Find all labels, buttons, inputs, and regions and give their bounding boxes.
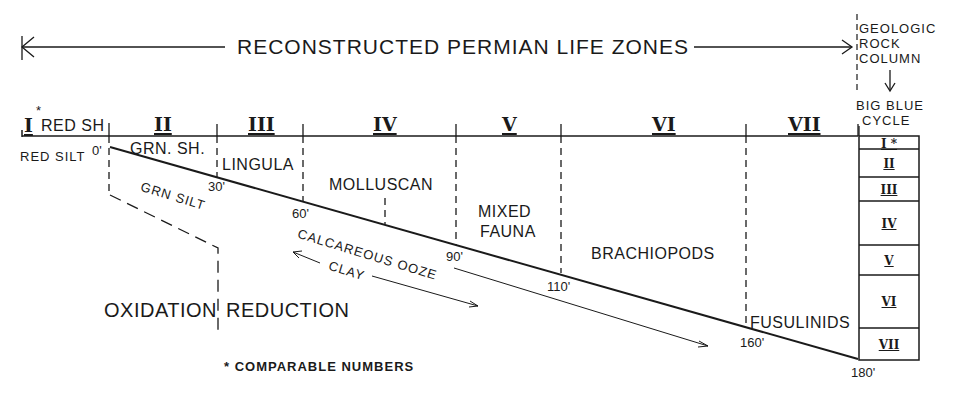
depth-0: 0' bbox=[92, 144, 102, 157]
rock-column-4: IV bbox=[866, 217, 912, 231]
zone-numeral-3: III bbox=[248, 115, 275, 134]
fauna-fauna: FAUNA bbox=[480, 224, 536, 240]
fauna-molluscan: MOLLUSCAN bbox=[329, 177, 433, 193]
rock-column-1: I * bbox=[866, 137, 912, 151]
zone-numeral-7: VII bbox=[788, 115, 821, 134]
side-header-geologic: GEOLOGIC bbox=[859, 22, 936, 35]
fauna-fusulinids: FUSULINIDS bbox=[750, 315, 850, 331]
zone-numeral-6: VI bbox=[652, 115, 676, 134]
sediment-red-silt: RED SILT bbox=[20, 150, 86, 163]
depth-60: 60' bbox=[292, 207, 309, 220]
fauna-grn-shale: GRN. SH. bbox=[130, 141, 205, 157]
rock-column-5: V bbox=[866, 254, 912, 268]
depth-110: 110' bbox=[547, 280, 570, 293]
side-header-cycle: CYCLE bbox=[862, 114, 910, 127]
diagram-lines bbox=[0, 0, 956, 394]
env-reduction: REDUCTION bbox=[226, 300, 349, 320]
fauna-lingula: LINGULA bbox=[222, 157, 294, 173]
rock-column-3: III bbox=[866, 183, 912, 197]
rock-column-6: VI bbox=[866, 295, 912, 309]
depth-160: 160' bbox=[740, 336, 764, 349]
env-oxidation: OXIDATION bbox=[104, 300, 217, 320]
depth-30: 30' bbox=[208, 180, 225, 193]
side-header-column: COLUMN bbox=[859, 52, 921, 65]
fauna-brachiopods: BRACHIOPODS bbox=[591, 246, 715, 262]
side-header-rock: ROCK bbox=[859, 37, 901, 50]
rock-column-2: II bbox=[866, 157, 912, 171]
zone-numeral-4: IV bbox=[373, 115, 397, 134]
comparable-marker: * bbox=[36, 104, 41, 117]
legend-comparable-numbers: * COMPARABLE NUMBERS bbox=[224, 360, 414, 373]
zone-numeral-2: II bbox=[154, 115, 172, 134]
fauna-mixed: MIXED bbox=[478, 204, 531, 220]
zone-numeral-5: V bbox=[502, 115, 517, 134]
depth-180: 180' bbox=[851, 366, 875, 379]
diagram-title: RECONSTRUCTED PERMIAN LIFE ZONES bbox=[237, 36, 689, 57]
rock-column-7: VII bbox=[866, 338, 912, 352]
depth-90: 90' bbox=[446, 250, 463, 263]
zone-1-red-shale: RED SH bbox=[41, 118, 104, 134]
side-header-big-blue: BIG BLUE bbox=[856, 99, 924, 112]
zone-numeral-1: I bbox=[24, 116, 33, 135]
